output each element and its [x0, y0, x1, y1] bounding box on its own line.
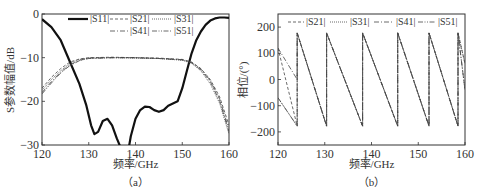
- y-tick-label: −100: [250, 99, 275, 113]
- y-axis-label-a: S参数幅值/dB: [3, 47, 16, 113]
- axis-ticks-b: 1201301401501602001000−100−200: [250, 20, 474, 161]
- y-tick-label: 200: [257, 20, 275, 34]
- y-tick-label: −10: [20, 51, 39, 65]
- legend-label-s51: |S51|: [438, 16, 458, 27]
- series-line-s51: [278, 33, 465, 126]
- panel-b-phase-chart: 1201301401501602001000−100−200 |S21| |S3…: [236, 14, 474, 188]
- x-tick-label: 160: [456, 147, 474, 161]
- x-tick-label: 150: [173, 147, 191, 161]
- y-tick-label: −200: [250, 125, 275, 139]
- panel-a-magnitude-chart: 1201301401501600−10−20−30 |S11| |S21| |S…: [3, 7, 238, 188]
- x-axis-label-b: 频率/GHz: [349, 157, 395, 170]
- legend-label-s41: |S41|: [396, 16, 416, 27]
- plot-frame-b: [278, 14, 465, 145]
- legend-label-s21: |S21|: [306, 16, 326, 27]
- series-line-s41: [278, 33, 465, 126]
- y-tick-label: 100: [257, 46, 275, 60]
- legend-label-s41: |S41|: [130, 25, 150, 36]
- y-tick-label: 0: [269, 73, 275, 87]
- x-tick-label: 130: [80, 147, 98, 161]
- legend-a: |S11| |S21| |S31| |S41| |S51|: [68, 13, 194, 36]
- x-tick-label: 160: [220, 147, 238, 161]
- legend-label-s11: |S11|: [90, 13, 109, 24]
- x-tick-label: 130: [316, 147, 334, 161]
- caption-a: （a）: [122, 176, 149, 188]
- legend-label-s21: |S21|: [130, 13, 150, 24]
- series-line-s31: [278, 33, 465, 126]
- figure: 1201301401501600−10−20−30 |S11| |S21| |S…: [0, 0, 481, 195]
- y-axis-label-b: 相位/(°): [236, 61, 250, 98]
- caption-b: （b）: [358, 176, 386, 188]
- legend-label-s31: |S31|: [350, 16, 370, 27]
- series-line-s11: [42, 18, 229, 150]
- series-line-s21: [42, 57, 229, 125]
- series-line-s21: [278, 33, 465, 126]
- series-group-b: [278, 33, 465, 126]
- y-tick-label: −30: [20, 138, 39, 152]
- x-axis-label-a: 频率/GHz: [113, 157, 159, 170]
- series-group-a: [42, 18, 229, 150]
- x-tick-label: 150: [409, 147, 427, 161]
- legend-label-s31: |S31|: [174, 13, 194, 24]
- legend-b: |S21| |S31| |S41| |S51|: [288, 16, 458, 27]
- legend-label-s51: |S51|: [174, 25, 194, 36]
- y-tick-label: 0: [33, 7, 39, 21]
- y-tick-label: −20: [20, 94, 39, 108]
- x-tick-label: 120: [269, 147, 287, 161]
